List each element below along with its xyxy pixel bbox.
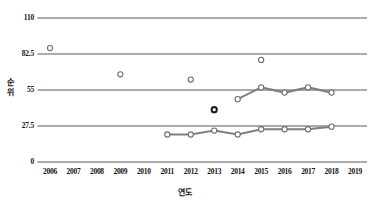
data-point — [259, 85, 264, 90]
data-point — [329, 124, 334, 129]
data-point — [235, 132, 240, 137]
data-point — [305, 85, 310, 90]
data-point — [188, 132, 193, 137]
data-point — [212, 128, 217, 133]
data-point — [235, 97, 240, 102]
data-point — [259, 57, 264, 62]
data-point — [259, 127, 264, 132]
data-point — [47, 46, 52, 51]
data-point — [165, 132, 170, 137]
data-point — [282, 127, 287, 132]
data-point — [212, 107, 217, 112]
series-scatter-filled — [212, 107, 217, 112]
chart-container: 순 위 연도 027.55582.5110 200620072008200920… — [0, 0, 370, 209]
series-scatter-open-upper — [47, 46, 263, 83]
data-point — [118, 72, 123, 77]
data-point — [188, 77, 193, 82]
series-line-upper — [235, 85, 334, 102]
data-point — [305, 127, 310, 132]
plot-area — [0, 0, 370, 209]
data-point — [282, 90, 287, 95]
data-point — [329, 90, 334, 95]
